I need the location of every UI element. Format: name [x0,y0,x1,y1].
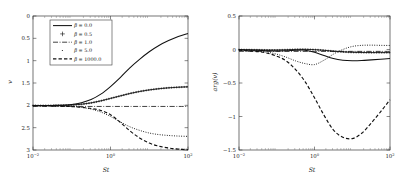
y-tick-label: 2 [27,102,30,108]
x-tick-label: 10−2 [233,153,245,160]
y-tick-label: 0.5 [227,13,236,19]
legend-label: β = 0.0 [73,22,92,29]
y-tick-label: −1.5 [223,147,237,153]
panel-magnitude: 10−210010232.521.510.50 β = 0.0β = 0.5β … [0,0,200,177]
curve-dotted [239,45,390,65]
x-axis-label-left: St [103,166,110,173]
curve-dashed [33,106,188,150]
x-tick-label: 100 [310,153,320,160]
curve-dashed [239,50,390,139]
y-tick-label: 3 [27,147,31,153]
y-tick-label: 0 [233,47,237,53]
y-tick-label: 1 [27,58,30,64]
x-axis-label-right: St [309,166,316,173]
panel-phase: 10−21001020.50−0.5−1−1.5 St arg(v) [200,0,400,177]
curve-plus-markers [33,87,188,106]
x-tick-label: 102 [183,153,192,160]
y-tick-label: −0.5 [223,80,237,86]
curve-dotted [33,106,188,137]
y-axis-label-left: v [6,80,13,84]
y-tick-label: 0 [27,13,31,19]
y-tick-label: −1 [228,114,236,120]
y-tick-label: 2.5 [21,125,30,131]
plot-frame [239,16,390,150]
legend-label: β = 1.0 [73,39,92,46]
figure-root: 10−210010232.521.510.50 β = 0.0β = 0.5β … [0,0,401,177]
plot-magnitude: 10−210010232.521.510.50 β = 0.0β = 0.5β … [0,0,200,177]
legend-label: β = 1000.0 [73,56,101,63]
plot-phase: 10−21001020.50−0.5−1−1.5 St arg(v) [200,0,400,177]
plus-marker-group [32,86,188,107]
legend-label: β = 5.0 [73,47,92,54]
x-tick-label: 100 [106,153,116,160]
x-tick-label: 10−2 [27,153,39,160]
legend-label: β = 0.5 [73,31,92,38]
y-tick-label: 1.5 [21,80,30,86]
y-axis-label-right: arg(v) [211,72,219,92]
x-tick-label: 102 [385,153,394,160]
y-tick-label: 0.5 [21,35,30,41]
